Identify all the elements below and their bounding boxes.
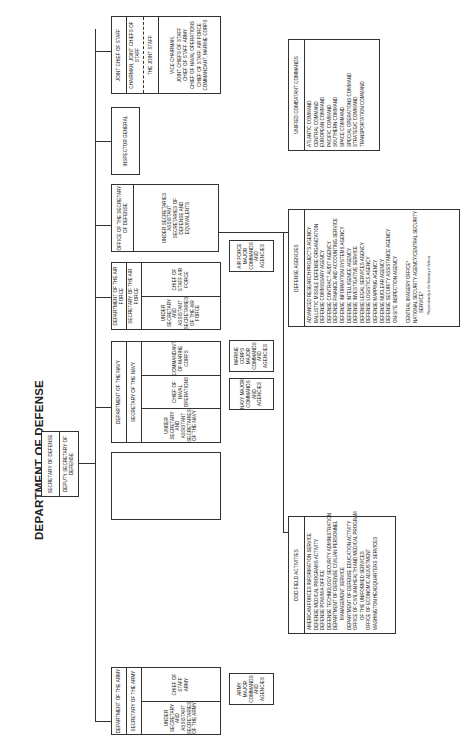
army-commands: ARMY MAJOR COMMANDS AND AGENCIES xyxy=(230,674,273,704)
marine-commands: MARINE CORPS MAJOR COMMANDS AND AGENCIES xyxy=(230,341,273,371)
connector xyxy=(95,407,111,408)
field-activities-header: DOD FIELD ACTIVITIES xyxy=(289,517,305,633)
member: VICE CHAIRMAN, xyxy=(170,36,177,74)
list-item: MANAGEMENT SERVICE xyxy=(340,511,347,630)
defense-agencies-list: ADVANCED RESEARCH PROJECTS AGENCY BALLIS… xyxy=(307,211,432,323)
connector xyxy=(95,51,111,52)
list-item: TRANSPORTATION COMMAND xyxy=(360,73,367,147)
list-item: DEFENSE POW/MIA OFFICE xyxy=(320,511,327,630)
list-item: EUROPEAN COMMAND xyxy=(320,73,327,147)
navy-box: DEPARTMENT OF THE NAVY SECRETARY OF THE … xyxy=(111,341,221,443)
air-force-header: DEPARTMENT OF THE AIR FORCE xyxy=(112,263,127,329)
inspector-general-box: INSPECTOR GENERAL xyxy=(111,107,140,175)
footnote: *Reports directly to the Secretary of De… xyxy=(426,211,433,323)
member: COMMANDANT, MARINE CORPS xyxy=(203,20,210,91)
member: CHIEF OF STAFF, ARMY xyxy=(183,29,190,81)
list-item: DEFENSE MAPPING AGENCY xyxy=(373,211,380,323)
list-item: NATIONAL SECURITY AGENCY/CENTRAL SECURIT… xyxy=(413,211,420,323)
list-item: ATLANTIC COMMAND xyxy=(307,73,314,147)
list-item: OF THE UNIFORMED SERVICES xyxy=(360,511,367,630)
navy-commandant: COMMANDANT OF MARINE CORPS xyxy=(142,342,220,375)
connector xyxy=(79,463,95,464)
org-chart: DEPARTMENT OF DEFENSE SECRETARY OF DEFEN… xyxy=(0,0,475,745)
air-force-under: UNDER SECRETARY AND ASSISTANT SECRETARIE… xyxy=(142,296,220,329)
connector xyxy=(95,141,111,142)
list-item: DEPARTMENT OF DEFENSE CIVILIAN PERSONNEL xyxy=(333,511,340,630)
list-item: DEFENSE LOGISTICS AGENCY xyxy=(366,211,373,323)
navy-header: DEPARTMENT OF THE NAVY xyxy=(112,342,127,442)
list-item: CENTRAL IMAGERY OFFICE* xyxy=(406,211,413,323)
list-item: DEFENSE INVESTIGATIVE SERVICE xyxy=(353,211,360,323)
joint-chiefs-box: JOINT CHIEF OF STAFF CHAIRMAN, JOINT CHI… xyxy=(111,16,221,94)
secretary-of-defense-box: SECRETARY OF DEFENSE DEPUTY SECRETARY OF… xyxy=(41,431,79,497)
marine-commands-box: MARINE CORPS MAJOR COMMANDS AND AGENCIES xyxy=(229,340,274,372)
army-header: DEPARTMENT OF THE ARMY xyxy=(112,668,127,734)
list-item: SERVICE* xyxy=(419,211,426,323)
osd-body: UNDER SECRETARIES ASSISTANT SECRETARIES … xyxy=(134,191,218,245)
list-item: SPECIAL OPERATIONS COMMAND xyxy=(347,73,354,147)
army-commands-box: ARMY MAJOR COMMANDS AND AGENCIES xyxy=(229,673,274,705)
list-item: SOUTHERN COMMAND xyxy=(333,73,340,147)
army-chief: CHIEF OF STAFF ARMY xyxy=(142,668,220,701)
inspector-general: INSPECTOR GENERAL xyxy=(112,108,139,174)
list-item: ADVANCED RESEARCH PROJECTS AGENCY xyxy=(307,211,314,323)
member: CHIEF OF STAFF, AIR FORCE xyxy=(197,23,204,87)
list-item: DEFENSE LEGAL SERVICES AGENCY xyxy=(360,211,367,323)
list-item: DEFENSE INTELLIGENCE AGENCY xyxy=(347,211,354,323)
list-item: DEFENSE MEDICAL PROGRAMS ACTIVITY xyxy=(314,511,321,630)
list-item: DEFENSE COMMISSARY AGENCY xyxy=(320,211,327,323)
list-item: DEFENSE INFORMATION SYSTEMS AGENCY xyxy=(340,211,347,323)
joint-staff: THE JOINT STAFF xyxy=(144,17,159,93)
unified-commands-box: UNIFIED COMBATANT COMMANDS ATLANTIC COMM… xyxy=(288,39,380,151)
navy-secretary: SECRETARY OF THE NAVY xyxy=(127,342,142,442)
air-force-commands: AIR FORCE MAJOR COMMANDS AND AGENCIES xyxy=(230,241,273,271)
deputy-secretary: DEPUTY SECRETARY OF DEFENSE xyxy=(60,432,78,496)
army-box: DEPARTMENT OF THE ARMY SECRETARY OF THE … xyxy=(111,667,221,735)
member: JOINT CHIEFS OF STAFF xyxy=(177,28,184,82)
navy-commands: NAVY MAJOR COMMANDS AND AGENCIES xyxy=(230,379,273,409)
list-item: ON-SITE INSPECTION AGENCY xyxy=(393,211,400,323)
defense-agencies-box: DEFENSE AGENCIES ADVANCED RESEARCH PROJE… xyxy=(288,209,460,327)
connector xyxy=(95,721,111,722)
joint-chiefs-members: VICE CHAIRMAN, JOINT CHIEFS OF STAFF CHI… xyxy=(160,17,220,93)
list-item: DEFENSE NUCLEAR AGENCY xyxy=(380,211,387,323)
navy-commands-box: NAVY MAJOR COMMANDS AND AGENCIES xyxy=(229,378,274,410)
army-box-placeholder xyxy=(111,452,221,520)
unified-commands-header: UNIFIED COMBATANT COMMANDS xyxy=(289,40,305,150)
air-force-commands-box: AIR FORCE MAJOR COMMANDS AND AGENCIES xyxy=(229,240,274,272)
spacer xyxy=(399,211,406,323)
list-item: STRATEGIC COMMAND xyxy=(353,73,360,147)
list-item: PACIFIC COMMAND xyxy=(327,73,334,147)
list-item: DEPARTMENT OF DEFENSE EDUCATION ACTIVITY xyxy=(347,511,354,630)
chairman: CHAIRMAN, JOINT CHIEFS OF STAFF xyxy=(127,17,143,93)
list-item: BALLISTIC MISSILE DEFENSE ORGANIZATION xyxy=(314,211,321,323)
osd-box: OFFICE OF THE SECRETARY OF DEFENSE UNDER… xyxy=(111,184,219,252)
air-force-chief: CHIEF OF STAFF AIR FORCE xyxy=(142,263,220,296)
list-item: AMERICAN FORCES INFORMATION SERVICE xyxy=(307,511,314,630)
osd-header: OFFICE OF THE SECRETARY OF DEFENSE xyxy=(112,185,134,251)
army-under: UNDER SECRETARY AND ASSISTANT SECRETARIE… xyxy=(142,701,220,734)
list-item: DEFENSE TECHNOLOGY SECURITY ADMINISTRATI… xyxy=(327,511,334,630)
defense-agencies-header: DEFENSE AGENCIES xyxy=(289,210,305,326)
list-item: OFFICE OF ECONOMIC ADJUSTMENT xyxy=(366,511,373,630)
list-item: DEFENSE CONTRACT AUDIT AGENCY xyxy=(327,211,334,323)
list-item: SPACE COMMAND xyxy=(340,73,347,147)
secretary-of-defense: SECRETARY OF DEFENSE xyxy=(42,432,60,496)
navy-cno: CHIEF OF NAVAL OPERATIONS xyxy=(142,375,220,408)
unified-commands-list: ATLANTIC COMMAND CENTRAL COMMAND EUROPEA… xyxy=(307,73,366,147)
field-activities-box: DOD FIELD ACTIVITIES AMERICAN FORCES INF… xyxy=(288,516,396,634)
connector xyxy=(219,232,283,233)
navy-under: UNDER SECRETARY AND ASSISTANT SECRETARIE… xyxy=(142,408,220,442)
connector xyxy=(95,225,111,226)
field-activities-list: AMERICAN FORCES INFORMATION SERVICE DEFE… xyxy=(307,511,380,630)
joint-chiefs-header: JOINT CHIEF OF STAFF xyxy=(112,17,127,93)
member: CHIEF OF NAVAL OPERATIONS xyxy=(190,21,197,89)
list-item: DEFENSE SECURITY ASSISTANCE AGENCY xyxy=(386,211,393,323)
main-bus xyxy=(95,29,96,722)
army-secretary: SECRETARY OF THE ARMY xyxy=(127,668,142,734)
list-item: DEFENSE FINANCE AND ACCOUNTING SERVICE xyxy=(333,211,340,323)
list-item: OFFICE OF CIVILIAN HEALTH AND MEDICAL PR… xyxy=(353,511,360,630)
air-force-secretary: SECRETARY OF THE AIR FORCE xyxy=(127,263,142,329)
connector xyxy=(95,297,111,298)
list-item: WASHINGTON HEADQUARTERS SERVICES xyxy=(373,511,380,630)
